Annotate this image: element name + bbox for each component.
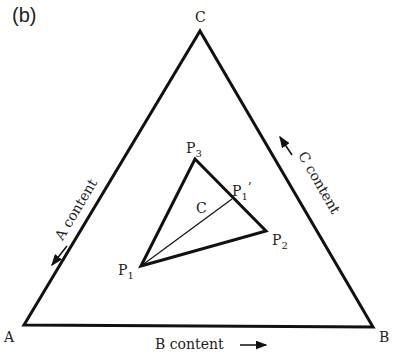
centroid-label: C [196, 200, 207, 216]
panel-label: (b) [12, 4, 36, 26]
vertex-a-label: A [3, 329, 15, 345]
p3-label: P3 [186, 140, 202, 159]
vertex-b-label: B [379, 329, 389, 345]
median-line [141, 199, 232, 266]
vertex-c-label: C [195, 9, 206, 25]
p1-label: P1 [118, 262, 134, 281]
c-content-arrow [280, 137, 292, 155]
p1-prime-label: P1’ [232, 181, 252, 202]
diagram-canvas: (b) C A B B content A content C content … [0, 0, 398, 353]
b-content-label: B content [155, 336, 224, 352]
p2-label: P2 [272, 232, 288, 251]
ternary-diagram: (b) C A B B content A content C content … [0, 0, 398, 353]
